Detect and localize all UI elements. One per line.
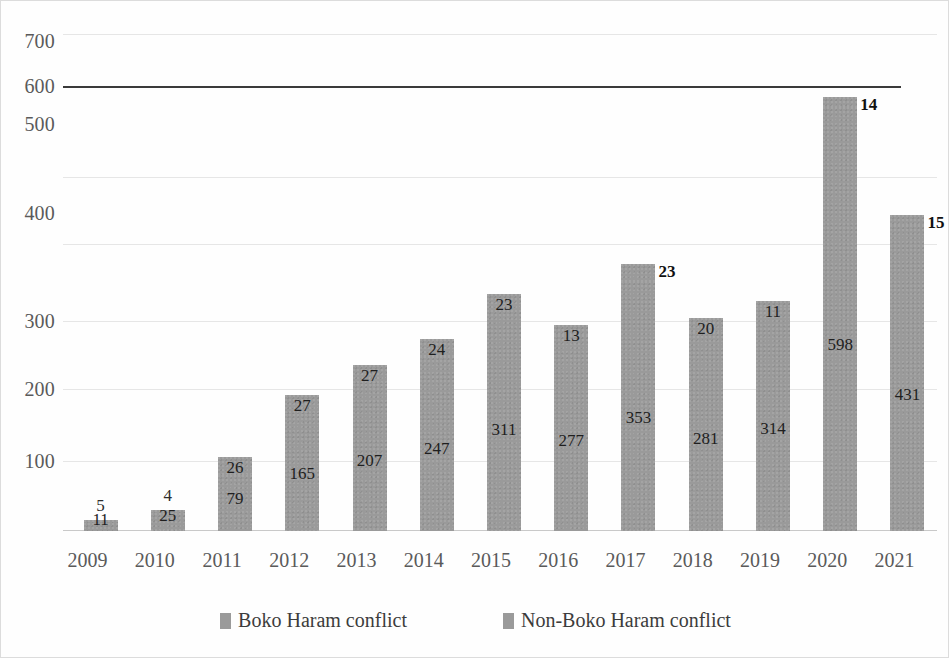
x-axis-tick-label: 2011 xyxy=(192,549,252,572)
bar-segment-non-boko-haram[interactable] xyxy=(890,215,924,226)
bar-value-label-non-boko-haram: 27 xyxy=(353,367,387,384)
legend-swatch-icon xyxy=(503,613,514,629)
bar-segment-boko-haram[interactable] xyxy=(823,107,857,531)
bar-value-label-boko-haram: 353 xyxy=(621,409,655,426)
bar-value-label-non-boko-haram: 13 xyxy=(554,327,588,344)
bar-value-label-boko-haram: 247 xyxy=(420,440,454,457)
x-axis-tick-label: 2017 xyxy=(595,549,655,572)
bar-value-label-non-boko-haram: 23 xyxy=(658,263,675,280)
y-axis-tick-label: 500 xyxy=(24,113,55,136)
bar-value-label-non-boko-haram: 24 xyxy=(420,341,454,358)
y-axis-tick-label: 400 xyxy=(24,202,55,225)
x-axis-tick-label: 2010 xyxy=(125,549,185,572)
x-axis-tick-label: 2014 xyxy=(394,549,454,572)
legend-item[interactable]: Boko Haram conflict xyxy=(220,609,407,632)
legend-label: Boko Haram conflict xyxy=(238,609,407,632)
bar-segment-non-boko-haram[interactable] xyxy=(823,97,857,107)
bar-segment-non-boko-haram[interactable] xyxy=(621,264,655,280)
x-axis-tick-label: 2018 xyxy=(663,549,723,572)
bar-value-label-non-boko-haram: 14 xyxy=(860,96,877,113)
bar-series-layer: 1152547926165272072724724311232771335323… xyxy=(63,19,937,531)
bar-value-label-boko-haram: 431 xyxy=(890,386,924,403)
x-axis-tick-label: 2012 xyxy=(259,549,319,572)
bar-value-label-non-boko-haram: 20 xyxy=(689,320,723,337)
x-axis-tick-label: 2009 xyxy=(58,549,118,572)
bar-value-label-non-boko-haram: 11 xyxy=(756,303,790,320)
bar-value-label-non-boko-haram: 23 xyxy=(487,296,521,313)
bar-value-label-boko-haram: 314 xyxy=(756,420,790,437)
x-axis-tick-label: 2021 xyxy=(864,549,924,572)
bar-segment-boko-haram[interactable] xyxy=(621,281,655,531)
bar-value-label-boko-haram: 25 xyxy=(151,507,185,524)
bar-value-label-non-boko-haram: 26 xyxy=(218,459,252,476)
bar-value-label-non-boko-haram: 15 xyxy=(927,214,944,231)
x-axis-tick-label: 2020 xyxy=(797,549,857,572)
y-axis-tick-label: 700 xyxy=(24,30,55,53)
y-axis-tick-label: 200 xyxy=(24,378,55,401)
chart-legend: Boko Haram conflictNon-Boko Haram confli… xyxy=(1,609,949,632)
bar-value-label-boko-haram: 281 xyxy=(689,430,723,447)
y-axis-tick-label: 100 xyxy=(24,450,55,473)
x-axis-tick-label: 2016 xyxy=(528,549,588,572)
chart-figure: 700600500400300200100 115254792616527207… xyxy=(0,0,949,658)
x-axis: 2009201020112012201320142015201620172018… xyxy=(63,549,937,579)
plot-area: 1152547926165272072724724311232771335323… xyxy=(63,19,937,531)
legend-item[interactable]: Non-Boko Haram conflict xyxy=(503,609,731,632)
legend-label: Non-Boko Haram conflict xyxy=(521,609,731,632)
bar-value-label-boko-haram: 207 xyxy=(353,452,387,469)
bar-value-label-non-boko-haram: 4 xyxy=(151,487,185,504)
x-axis-tick-label: 2013 xyxy=(327,549,387,572)
bar-segment-boko-haram[interactable] xyxy=(890,225,924,531)
y-axis-tick-label: 600 xyxy=(24,75,55,98)
y-axis: 700600500400300200100 xyxy=(1,19,61,531)
bar-value-label-non-boko-haram: 5 xyxy=(84,497,118,514)
x-axis-tick-label: 2019 xyxy=(730,549,790,572)
bar-value-label-non-boko-haram: 27 xyxy=(285,397,319,414)
bar-value-label-boko-haram: 165 xyxy=(285,465,319,482)
x-axis-tick-label: 2015 xyxy=(461,549,521,572)
bar-value-label-boko-haram: 79 xyxy=(218,490,252,507)
bar-value-label-boko-haram: 598 xyxy=(823,336,857,353)
bar-value-label-boko-haram: 311 xyxy=(487,421,521,438)
bar-value-label-boko-haram: 277 xyxy=(554,432,588,449)
legend-swatch-icon xyxy=(220,613,231,629)
y-axis-tick-label: 300 xyxy=(24,310,55,333)
